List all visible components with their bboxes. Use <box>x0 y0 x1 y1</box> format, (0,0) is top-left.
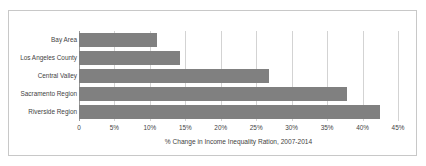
bar <box>79 69 269 83</box>
bar-row <box>79 33 398 47</box>
tick-label: 0 <box>77 123 81 132</box>
bar <box>79 51 180 65</box>
category-label: Central Valley <box>11 72 77 80</box>
tick-label: 45% <box>392 123 405 132</box>
x-axis-title: % Change in Income Inequality Ration, 20… <box>79 137 398 146</box>
tick-label: 25% <box>250 123 263 132</box>
category-label: Los Angeles County <box>11 54 77 62</box>
category-axis-labels: Bay AreaLos Angeles CountyCentral Valley… <box>9 31 77 121</box>
category-label: Riverside Region <box>11 108 77 116</box>
category-label: Bay Area <box>11 36 77 44</box>
plot-area <box>79 31 398 121</box>
tick-label: 30% <box>285 123 298 132</box>
tick-label: 10% <box>143 123 156 132</box>
category-label: Sacramento Region <box>11 90 77 98</box>
bar-row <box>79 69 398 83</box>
bar-row <box>79 87 398 101</box>
bar-row <box>79 105 398 119</box>
bar <box>79 87 347 101</box>
tick-label: 20% <box>214 123 227 132</box>
tick-label: 40% <box>356 123 369 132</box>
bar <box>79 33 157 47</box>
tick-label: 5% <box>110 123 119 132</box>
gridline <box>398 31 399 121</box>
tick-label: 15% <box>179 123 192 132</box>
value-axis-tick-labels: 05%10%15%20%25%30%35%40%45% <box>79 123 404 135</box>
bar <box>79 105 380 119</box>
chart-figure: Bay AreaLos Angeles CountyCentral Valley… <box>8 10 417 156</box>
bar-row <box>79 51 398 65</box>
bar-series <box>79 31 398 121</box>
tick-label: 35% <box>321 123 334 132</box>
